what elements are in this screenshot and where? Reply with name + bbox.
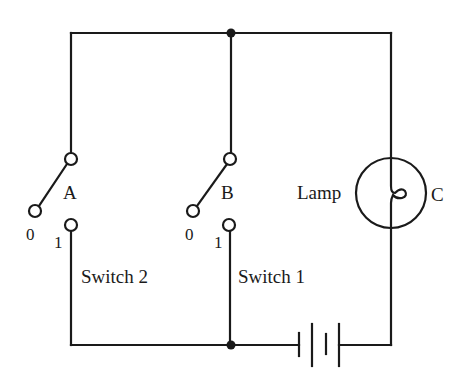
switch-b: B 0 1 Switch 1 [185, 33, 305, 345]
bottom-junction-dot [227, 341, 236, 350]
switch-b-one-terminal [223, 219, 235, 231]
switch-a-one-terminal [65, 219, 77, 231]
switch-a: A 0 1 Switch 2 [26, 33, 148, 345]
switch-b-name-label: Switch 1 [238, 266, 305, 287]
switch-b-zero-label: 0 [185, 225, 194, 244]
switch-a-one-label: 1 [54, 233, 63, 252]
lamp: Lamp C [297, 33, 444, 345]
switch-b-zero-terminal [187, 205, 199, 217]
switch-a-zero-terminal [29, 205, 41, 217]
battery-icon [299, 324, 339, 366]
lamp-name-label: Lamp [297, 182, 341, 203]
switch-a-common-terminal [65, 153, 77, 165]
switch-a-id-label: A [63, 182, 77, 203]
switch-b-one-label: 1 [214, 233, 223, 252]
lamp-id-label: C [431, 184, 444, 205]
circuit-diagram: A 0 1 Switch 2 B 0 1 Switch 1 Lamp C [0, 0, 463, 381]
switch-b-id-label: B [221, 182, 234, 203]
switch-b-common-terminal [224, 153, 236, 165]
switch-a-name-label: Switch 2 [81, 266, 148, 287]
lamp-filament-icon [391, 158, 406, 228]
switch-a-zero-label: 0 [26, 225, 35, 244]
